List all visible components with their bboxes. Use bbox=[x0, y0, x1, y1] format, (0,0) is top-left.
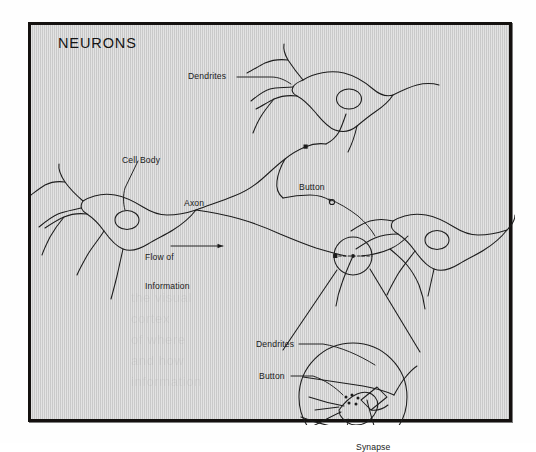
dendrite-tr-5 bbox=[253, 99, 274, 133]
expansion-cone-left bbox=[283, 270, 337, 350]
dendrite-tr-4 bbox=[251, 87, 293, 101]
dendrite-l-4 bbox=[39, 208, 81, 227]
dendrite-l-6 bbox=[111, 249, 123, 299]
inset-button-axon-stem bbox=[315, 407, 339, 410]
label-flow-line-1: Flow of bbox=[145, 253, 190, 263]
dendrite-tr-2 bbox=[247, 60, 288, 73]
synaptic-vesicles bbox=[345, 394, 360, 406]
axon-after-magnifier bbox=[361, 236, 408, 256]
dendrite-l-3 bbox=[45, 214, 87, 228]
axon-left-to-right bbox=[196, 210, 346, 256]
vesicle-1 bbox=[345, 396, 348, 399]
axon-up-to-soma bbox=[326, 114, 346, 144]
terminal-buttons bbox=[304, 145, 355, 259]
vesicle-5 bbox=[355, 403, 358, 406]
inset-button-leader-upper bbox=[309, 397, 344, 406]
plate-frame: the visual cortex of where and how infor… bbox=[28, 22, 512, 422]
terminal-button-square-2 bbox=[333, 254, 337, 258]
nucleus-top-right bbox=[337, 89, 362, 109]
label-axon: Axon bbox=[184, 198, 204, 208]
label-dendrites-top: Dendrites bbox=[188, 71, 226, 81]
label-button-inset: Button bbox=[259, 371, 285, 381]
dendrite-r-2 bbox=[356, 234, 398, 249]
leader-dendrites-inset bbox=[299, 344, 375, 365]
dendrite-r-5 bbox=[507, 215, 515, 230]
label-flow-of-information: Flow of Information bbox=[145, 234, 190, 311]
leader-dendrites-top bbox=[237, 77, 291, 84]
dendrite-tr-3 bbox=[256, 96, 297, 109]
vesicle-4 bbox=[348, 402, 351, 405]
label-dendrites-inset: Dendrites bbox=[256, 339, 294, 349]
dendrite-l-7 bbox=[77, 231, 104, 275]
inset-receiving-dendrite bbox=[394, 366, 417, 395]
inset-postsynaptic-dendrite-stem bbox=[303, 377, 394, 395]
axon-branch-d bbox=[336, 256, 353, 306]
dendrite-r-1 bbox=[351, 220, 393, 232]
axon-left-to-topright bbox=[196, 147, 305, 210]
flow-arrow-head bbox=[218, 244, 224, 248]
magnifier-center-dot bbox=[351, 254, 355, 258]
terminal-button-square-1 bbox=[304, 145, 308, 149]
label-button-main: Button bbox=[299, 182, 325, 192]
neuron-line-art bbox=[31, 25, 515, 425]
dendrite-tr-6 bbox=[393, 84, 439, 96]
dendrite-r-4 bbox=[387, 251, 415, 295]
dendrite-tr-1 bbox=[284, 44, 303, 80]
axon-branch-c bbox=[283, 195, 331, 201]
inset-button-leader-lower2 bbox=[301, 417, 331, 425]
dendrite-r-3 bbox=[428, 269, 434, 296]
expansion-cone-right bbox=[370, 269, 420, 352]
nucleus-left bbox=[115, 211, 139, 230]
vesicle-3 bbox=[357, 397, 360, 400]
nucleus-right bbox=[425, 231, 449, 250]
axon-branch-a bbox=[305, 144, 326, 147]
dendrite-l-1 bbox=[59, 164, 83, 201]
page-title: NEURONS bbox=[58, 35, 137, 51]
dendrite-l-2 bbox=[31, 182, 65, 195]
label-cell-body: Cell Body bbox=[122, 155, 160, 165]
label-flow-line-2: Information bbox=[145, 282, 190, 292]
vesicle-2 bbox=[351, 394, 354, 397]
label-synapse-inset: Synapse bbox=[356, 442, 391, 452]
